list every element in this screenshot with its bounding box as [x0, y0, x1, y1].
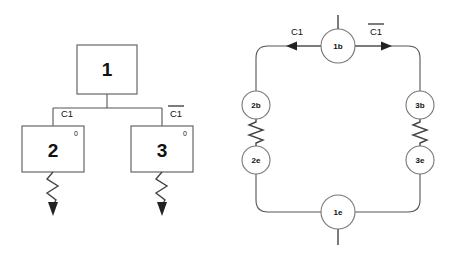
node-2b-label: 2b [251, 101, 260, 110]
node-3b-label: 3b [415, 101, 424, 110]
zigzag-arrow-left-head [48, 202, 58, 216]
right-diagram-group: C1 C1 1b 2b 2e 3b 3e 1e [242, 15, 434, 245]
arrow-right-label: C1 [370, 26, 382, 37]
block-2-label: 2 [48, 140, 59, 161]
zigzag-arrow-right [156, 172, 167, 205]
resistor-right [413, 119, 427, 146]
arrow-right-head [381, 42, 392, 51]
arrow-left-label: C1 [291, 26, 303, 37]
block-3-label: 3 [157, 140, 168, 161]
block-2-corner-marker: 0 [74, 130, 78, 137]
block-3-corner-marker: 0 [183, 130, 187, 137]
branch-label-c1-bar: C1 [170, 108, 182, 119]
left-diagram-group: 1 C1 C1 2 0 3 0 [22, 45, 193, 216]
loop-wire-bottom-left [256, 174, 321, 212]
schematic-svg: 1 C1 C1 2 0 3 0 [0, 0, 457, 260]
resistor-left [249, 119, 263, 146]
loop-wire-top-right [390, 46, 420, 91]
figure-canvas: 1 C1 C1 2 0 3 0 [0, 0, 457, 260]
node-2e-label: 2e [252, 156, 261, 165]
block-1-label: 1 [102, 59, 113, 80]
zigzag-arrow-right-head [157, 202, 167, 216]
loop-wire-bottom-right [355, 174, 420, 212]
arrow-left-head [286, 42, 297, 51]
branch-label-c1: C1 [61, 108, 73, 119]
node-1e-label: 1e [334, 208, 343, 217]
node-1b-label: 1b [333, 42, 342, 51]
zigzag-arrow-left [47, 172, 58, 205]
node-3e-label: 3e [416, 156, 425, 165]
loop-wire-top-left [256, 46, 289, 91]
